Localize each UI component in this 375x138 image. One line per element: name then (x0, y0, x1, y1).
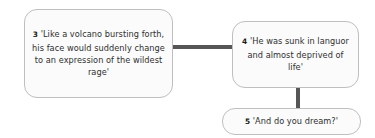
node-5-text: 'And do you dream?' (253, 116, 338, 126)
diagram-canvas: 3 'Like a volcano bursting forth, his fa… (0, 0, 375, 138)
node-4-text: 'He was sunk in languor and almost depri… (247, 36, 349, 72)
node-4-number: 4 (242, 37, 247, 46)
node-5-content: 5 'And do you dream?' (230, 115, 353, 128)
node-4-content: 4 'He was sunk in languor and almost dep… (240, 35, 351, 73)
node-3-content: 3 'Like a volcano bursting forth, his fa… (32, 28, 165, 79)
node-3-text: 'Like a volcano bursting forth, his face… (32, 29, 165, 77)
diagram-node-3[interactable]: 3 'Like a volcano bursting forth, his fa… (24, 9, 173, 98)
node-3-number: 3 (33, 30, 38, 39)
diagram-node-4[interactable]: 4 'He was sunk in languor and almost dep… (232, 21, 359, 88)
diagram-node-5[interactable]: 5 'And do you dream?' (222, 108, 361, 135)
connector-node3-node4 (166, 45, 238, 49)
node-5-number: 5 (245, 117, 250, 126)
